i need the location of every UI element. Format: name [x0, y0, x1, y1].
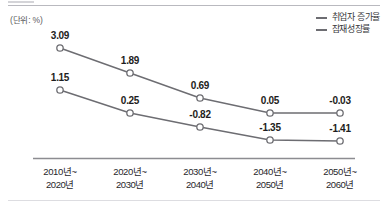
data-point-marker[interactable]: [127, 70, 133, 76]
x-axis-category-label: 2010년~2020년: [22, 165, 98, 191]
x-axis-category-label: 2050년~2060년: [302, 165, 378, 191]
x-axis-category-label: 2020년~2030년: [92, 165, 168, 191]
series-layer: [57, 45, 343, 144]
data-point-marker[interactable]: [127, 110, 133, 116]
chart-card: (단위: %) 취업자 증가율 잠재성장률 3.091.890.690.05-0…: [0, 0, 388, 211]
data-point-marker[interactable]: [57, 87, 63, 93]
data-point-label: -1.41: [329, 123, 350, 134]
data-point-marker[interactable]: [337, 110, 343, 116]
data-point-label: -0.03: [329, 95, 350, 106]
data-point-label: 1.89: [121, 55, 139, 66]
data-point-marker[interactable]: [57, 45, 63, 51]
data-point-label: 0.05: [261, 95, 279, 106]
data-point-label: -0.82: [189, 109, 210, 120]
x-axis-category-label: 2030년~2040년: [162, 165, 238, 191]
data-point-marker[interactable]: [197, 124, 203, 130]
data-point-label: 0.69: [191, 80, 209, 91]
data-point-label: 1.15: [51, 72, 69, 83]
x-axis-category-label: 2040년~2050년: [232, 165, 308, 191]
data-point-marker[interactable]: [337, 138, 343, 144]
data-point-marker[interactable]: [197, 95, 203, 101]
data-point-marker[interactable]: [267, 110, 273, 116]
data-point-marker[interactable]: [267, 137, 273, 143]
data-point-label: 3.09: [51, 30, 69, 41]
data-point-label: 0.25: [121, 95, 139, 106]
data-point-label: -1.35: [259, 122, 280, 133]
